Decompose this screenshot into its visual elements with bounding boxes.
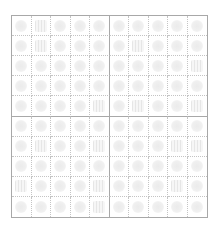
grid-cell — [110, 137, 130, 157]
faded-round-glyph-icon — [35, 201, 47, 213]
grid-cell — [168, 197, 188, 217]
faded-round-glyph-icon — [15, 140, 27, 152]
faded-round-glyph-icon — [93, 60, 105, 72]
grid-cell — [188, 16, 208, 36]
faded-round-glyph-icon — [93, 20, 105, 32]
grid-cell — [129, 96, 149, 116]
grid-cell — [110, 117, 130, 137]
faded-round-glyph-icon — [74, 120, 86, 132]
grid-cell — [129, 56, 149, 76]
grid-cell — [12, 137, 32, 157]
grid-cell — [32, 56, 52, 76]
grid-cell — [12, 36, 32, 56]
grid-cell — [110, 197, 130, 217]
grid-cell — [129, 16, 149, 36]
faded-round-glyph-icon — [152, 60, 164, 72]
faded-striped-glyph-icon — [132, 100, 144, 112]
faded-round-glyph-icon — [171, 60, 183, 72]
grid-cell — [188, 76, 208, 96]
faded-round-glyph-icon — [113, 140, 125, 152]
faded-round-glyph-icon — [15, 120, 27, 132]
faded-round-glyph-icon — [171, 120, 183, 132]
grid-cell — [168, 157, 188, 177]
faded-round-glyph-icon — [35, 60, 47, 72]
faded-striped-glyph-icon — [35, 40, 47, 52]
faded-round-glyph-icon — [132, 20, 144, 32]
grid-cell — [168, 16, 188, 36]
grid-cell — [168, 36, 188, 56]
grid-cell — [71, 36, 91, 56]
faded-round-glyph-icon — [54, 20, 66, 32]
faded-round-glyph-icon — [113, 100, 125, 112]
faded-round-glyph-icon — [191, 180, 203, 192]
grid-cell — [90, 76, 110, 96]
faded-striped-glyph-icon — [132, 40, 144, 52]
faded-round-glyph-icon — [191, 160, 203, 172]
grid-cell — [51, 117, 71, 137]
grid-cell — [110, 76, 130, 96]
faded-striped-glyph-icon — [93, 140, 105, 152]
faded-round-glyph-icon — [54, 201, 66, 213]
faded-striped-glyph-icon — [35, 20, 47, 32]
faded-round-glyph-icon — [15, 80, 27, 92]
faded-round-glyph-icon — [54, 140, 66, 152]
grid-cell — [32, 96, 52, 116]
faded-round-glyph-icon — [132, 201, 144, 213]
grid-cell — [188, 96, 208, 116]
grid-cell — [12, 56, 32, 76]
grid-cell — [51, 56, 71, 76]
faded-striped-glyph-icon — [93, 201, 105, 213]
grid-cell — [51, 137, 71, 157]
faded-round-glyph-icon — [74, 180, 86, 192]
faded-round-glyph-icon — [74, 20, 86, 32]
faded-round-glyph-icon — [15, 201, 27, 213]
grid-cell — [32, 157, 52, 177]
faded-round-glyph-icon — [35, 80, 47, 92]
grid-cell — [71, 117, 91, 137]
grid-cell — [90, 137, 110, 157]
grid-cell — [90, 56, 110, 76]
faded-round-glyph-icon — [113, 40, 125, 52]
faded-round-glyph-icon — [171, 20, 183, 32]
grid-cell — [110, 177, 130, 197]
faded-round-glyph-icon — [113, 20, 125, 32]
grid-cell — [149, 96, 169, 116]
faded-round-glyph-icon — [15, 20, 27, 32]
grid-cell — [12, 177, 32, 197]
grid-cell — [90, 117, 110, 137]
faded-round-glyph-icon — [74, 60, 86, 72]
grid-cell — [51, 197, 71, 217]
faded-round-glyph-icon — [152, 201, 164, 213]
grid-cell — [110, 36, 130, 56]
faded-round-glyph-icon — [74, 140, 86, 152]
grid-cell — [168, 76, 188, 96]
grid-cell — [12, 197, 32, 217]
faded-striped-glyph-icon — [171, 140, 183, 152]
faded-round-glyph-icon — [152, 120, 164, 132]
grid-cell — [32, 76, 52, 96]
grid-cell — [168, 137, 188, 157]
grid-cell — [129, 157, 149, 177]
faded-round-glyph-icon — [15, 40, 27, 52]
faded-round-glyph-icon — [132, 160, 144, 172]
faded-round-glyph-icon — [54, 40, 66, 52]
grid-cell — [51, 76, 71, 96]
faded-round-glyph-icon — [132, 180, 144, 192]
grid-cell — [32, 117, 52, 137]
faded-round-glyph-icon — [113, 160, 125, 172]
faded-round-glyph-icon — [54, 80, 66, 92]
faded-round-glyph-icon — [113, 80, 125, 92]
grid-cell — [168, 117, 188, 137]
character-practice-grid — [11, 15, 208, 218]
grid-cell — [32, 36, 52, 56]
faded-round-glyph-icon — [152, 180, 164, 192]
faded-round-glyph-icon — [35, 160, 47, 172]
faded-round-glyph-icon — [132, 60, 144, 72]
grid-cell — [188, 157, 208, 177]
faded-round-glyph-icon — [35, 100, 47, 112]
faded-round-glyph-icon — [54, 120, 66, 132]
grid-cell — [51, 177, 71, 197]
grid-cell — [71, 96, 91, 116]
faded-round-glyph-icon — [113, 201, 125, 213]
faded-round-glyph-icon — [54, 100, 66, 112]
